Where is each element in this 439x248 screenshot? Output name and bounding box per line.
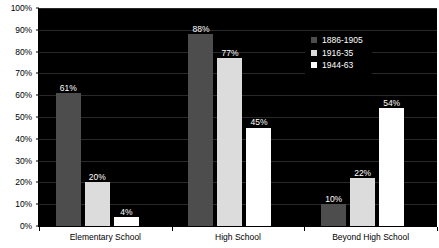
bar: 77% (217, 58, 242, 226)
y-axis-tick-label: 30% (15, 156, 32, 165)
bar-value-label: 4% (120, 208, 132, 217)
legend-item: 1916-35 (311, 49, 363, 58)
legend-item: 1944-63 (311, 61, 363, 70)
bar-chart: 100%90%80%70%60%50%40%30%20%10%0% 61%20%… (0, 0, 439, 248)
legend-label: 1886-1905 (322, 36, 363, 45)
bar-group: 61%20%4% (39, 8, 172, 226)
bar: 22% (350, 178, 375, 226)
bar-value-label: 20% (89, 173, 106, 182)
bar-value-label: 88% (192, 25, 209, 34)
y-axis: 100%90%80%70%60%50%40%30%20%10%0% (0, 8, 36, 226)
bar-group: 88%77%45% (172, 8, 305, 226)
bar-value-label: 10% (325, 195, 342, 204)
x-axis-tick-mark (39, 227, 40, 231)
x-axis-tick-mark (437, 227, 438, 231)
y-axis-tick-label: 40% (15, 135, 32, 144)
bar: 10% (321, 204, 346, 226)
legend-label: 1916-35 (322, 49, 353, 58)
legend-swatch-icon (311, 50, 317, 56)
x-axis-tick-label: Elementary School (70, 233, 141, 242)
x-axis-tick-label: High School (215, 233, 261, 242)
bar-value-label: 61% (60, 84, 77, 93)
x-axis-tick-mark (172, 227, 173, 231)
bar: 61% (56, 93, 81, 226)
y-axis-tick-label: 90% (15, 26, 32, 35)
bar: 20% (85, 182, 110, 226)
legend: 1886-19051916-351944-63 (305, 32, 372, 74)
bar-value-label: 22% (354, 169, 371, 178)
y-axis-tick-label: 60% (15, 91, 32, 100)
legend-label: 1944-63 (322, 61, 353, 70)
plot-area: 61%20%4%88%77%45%10%22%54% (39, 8, 437, 226)
bar-value-label: 54% (383, 99, 400, 108)
y-axis-line (38, 8, 39, 227)
legend-swatch-icon (311, 37, 317, 43)
bar-value-label: 45% (250, 118, 267, 127)
legend-item: 1886-1905 (311, 36, 363, 45)
y-axis-tick-label: 10% (15, 200, 32, 209)
y-axis-tick-label: 80% (15, 47, 32, 56)
bar: 54% (379, 108, 404, 226)
legend-swatch-icon (311, 62, 317, 68)
bar: 4% (114, 217, 139, 226)
bar: 45% (246, 128, 271, 226)
x-axis-tick-label: Beyond High School (332, 233, 409, 242)
y-axis-tick-label: 50% (15, 113, 32, 122)
x-axis: Elementary SchoolHigh SchoolBeyond High … (39, 227, 437, 248)
y-axis-tick-label: 70% (15, 69, 32, 78)
y-axis-tick-label: 100% (11, 4, 32, 13)
bar-value-label: 77% (221, 49, 238, 58)
y-axis-tick-label: 0% (20, 222, 32, 231)
y-axis-tick-label: 20% (15, 178, 32, 187)
x-axis-tick-mark (304, 227, 305, 231)
bar: 88% (188, 34, 213, 226)
